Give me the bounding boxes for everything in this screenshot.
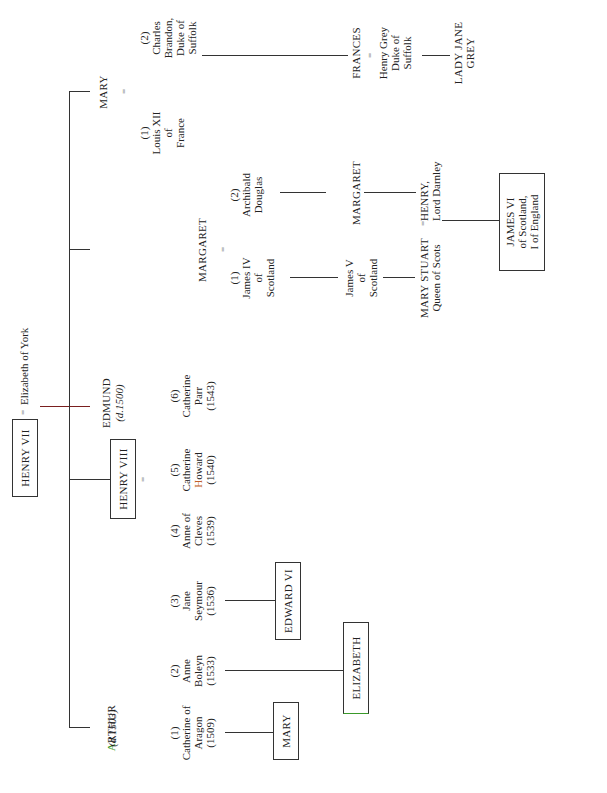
brandon-num: (2) xyxy=(138,3,150,73)
wife-6-num: (6) xyxy=(168,366,180,426)
wife-6-year: (1543) xyxy=(204,366,216,426)
wife-6-name: Catherine Parr xyxy=(180,366,204,426)
brandon-to-frances-line xyxy=(202,55,348,56)
edward-vi-box: EDWARD VI xyxy=(275,562,301,640)
henry-viii-marriage-symbol: = xyxy=(138,477,148,482)
arthur-note: (d.1503) xyxy=(106,693,118,763)
henry-viii-box: HENRY VIII xyxy=(110,439,136,519)
elizabeth-of-york: Elizabeth of York xyxy=(18,315,30,405)
wife-4-num: (4) xyxy=(168,501,180,561)
edmund-name: EDMUND xyxy=(100,368,112,438)
mary-drop xyxy=(69,91,90,92)
elizabeth-box: ELIZABETH xyxy=(343,622,369,714)
lady-jane-grey-name: LADY JANE GREY xyxy=(452,13,476,93)
wife-3-num: (3) xyxy=(168,571,180,631)
edward-line xyxy=(225,600,275,601)
mary-tudor-name: MARY xyxy=(97,67,109,117)
root-connector-line xyxy=(40,406,90,407)
henry-grey-name: Henry Grey Duke of Suffolk xyxy=(377,13,413,93)
james-iv-to-james-v-line xyxy=(290,277,338,278)
mary-i-box: MARY xyxy=(273,702,299,760)
frances-name: FRANCES xyxy=(350,13,362,93)
children-sibling-bar xyxy=(69,91,70,728)
james-v-name: James V of Scotland xyxy=(343,248,379,308)
wife-5-rest: oward xyxy=(192,452,204,480)
mary-i-line xyxy=(225,732,273,733)
henry-viii-drop xyxy=(69,479,112,480)
mary-stuart-marriage-symbol: = xyxy=(418,221,428,226)
wife-5-num: (5) xyxy=(168,440,180,500)
wife-2-year: (1533) xyxy=(204,641,216,701)
douglas-num: (2) xyxy=(228,165,240,225)
mary-stuart-name: MARY STUART xyxy=(418,233,430,323)
wife-1-name: Catherine of Aragon xyxy=(180,693,204,773)
douglas-to-margaret-line xyxy=(280,192,326,193)
mary-stuart-title: Queen of Scots xyxy=(430,233,442,323)
wife-5-year: (1540) xyxy=(204,440,216,500)
arthur-drop xyxy=(69,727,90,728)
darnley-name: HENRY, xyxy=(418,151,430,221)
douglas-name: Archibald Douglas xyxy=(240,165,264,225)
wife-1-num: (1) xyxy=(168,693,180,773)
frances-marriage-symbol: = xyxy=(365,53,375,58)
wife-2-num: (2) xyxy=(168,641,180,701)
louis-xii-num: (1) xyxy=(138,103,150,163)
root-marriage-symbol: = xyxy=(18,410,28,415)
family-tree-diagram: HENRY VII = Elizabeth of York ARTHUR (d.… xyxy=(0,0,607,793)
margaret-name: MARGARET xyxy=(196,207,208,293)
elizabeth-line xyxy=(225,670,343,671)
mary-marriage-symbol: = xyxy=(119,89,129,94)
wife-4-year: (1539) xyxy=(204,501,216,561)
darnley-to-james-vi-line xyxy=(442,220,499,221)
henry-vii-box: HENRY VII xyxy=(12,419,38,497)
brandon-name: Charles Brandon, Duke of Suffolk xyxy=(150,3,198,73)
wife-1-year: (1509) xyxy=(204,693,216,773)
wife-4-name: Anne of Cleves xyxy=(180,501,204,561)
louis-xii-name: Louis XII of France xyxy=(150,103,186,163)
wife-2-name: Anne Boleyn xyxy=(180,641,204,701)
wife-5-initial: H xyxy=(192,480,204,488)
james-iv-name: James IV of Scotland xyxy=(240,248,276,308)
james-v-to-mary-stuart-line xyxy=(383,277,415,278)
edmund-note: (d.1500) xyxy=(113,368,125,438)
margaret-to-darnley-line xyxy=(364,192,416,193)
margaret-marriage-symbol: = xyxy=(218,247,228,252)
wife-5-name-top: Catherine xyxy=(180,440,192,500)
wife-3-name: Jane Seymour xyxy=(180,571,204,631)
margaret-drop xyxy=(69,249,90,250)
margaret-douglas-name: MARGARET xyxy=(350,153,362,233)
james-vi-box: JAMES VI of Scotland, I of England xyxy=(499,173,545,271)
wife-5-name-bottom: Howard xyxy=(192,440,204,500)
wife-3-year: (1536) xyxy=(204,571,216,631)
darnley-title: Lord Darnley xyxy=(430,141,442,221)
grey-to-jane-line xyxy=(422,55,450,56)
james-iv-num: (1) xyxy=(228,248,240,308)
